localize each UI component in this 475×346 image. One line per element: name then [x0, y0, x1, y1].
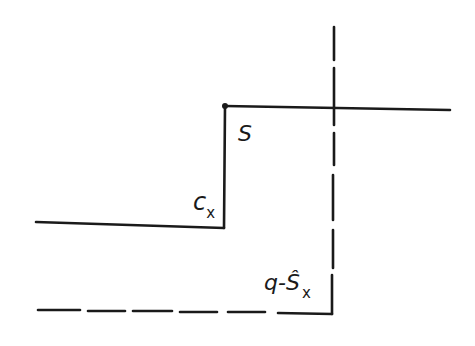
lower-level-line [36, 222, 224, 228]
vertical-dashed-line [332, 27, 334, 314]
c-subscript: x [206, 204, 215, 222]
upper-level-line [225, 106, 450, 110]
q-subscript: x [302, 284, 311, 302]
bottom-dashed-line [38, 310, 332, 314]
corner-dot [222, 103, 228, 109]
label-q-minus-s-hat-x: q-Ŝx [264, 272, 311, 294]
step-riser-line [224, 106, 225, 228]
label-c-x: cx [193, 190, 215, 214]
step-diagram [0, 0, 475, 346]
q-minus-s-hat-symbol: q-Ŝ [264, 270, 300, 295]
label-s: S [238, 123, 252, 145]
s-symbol: S [238, 121, 252, 146]
c-symbol: c [193, 188, 206, 216]
